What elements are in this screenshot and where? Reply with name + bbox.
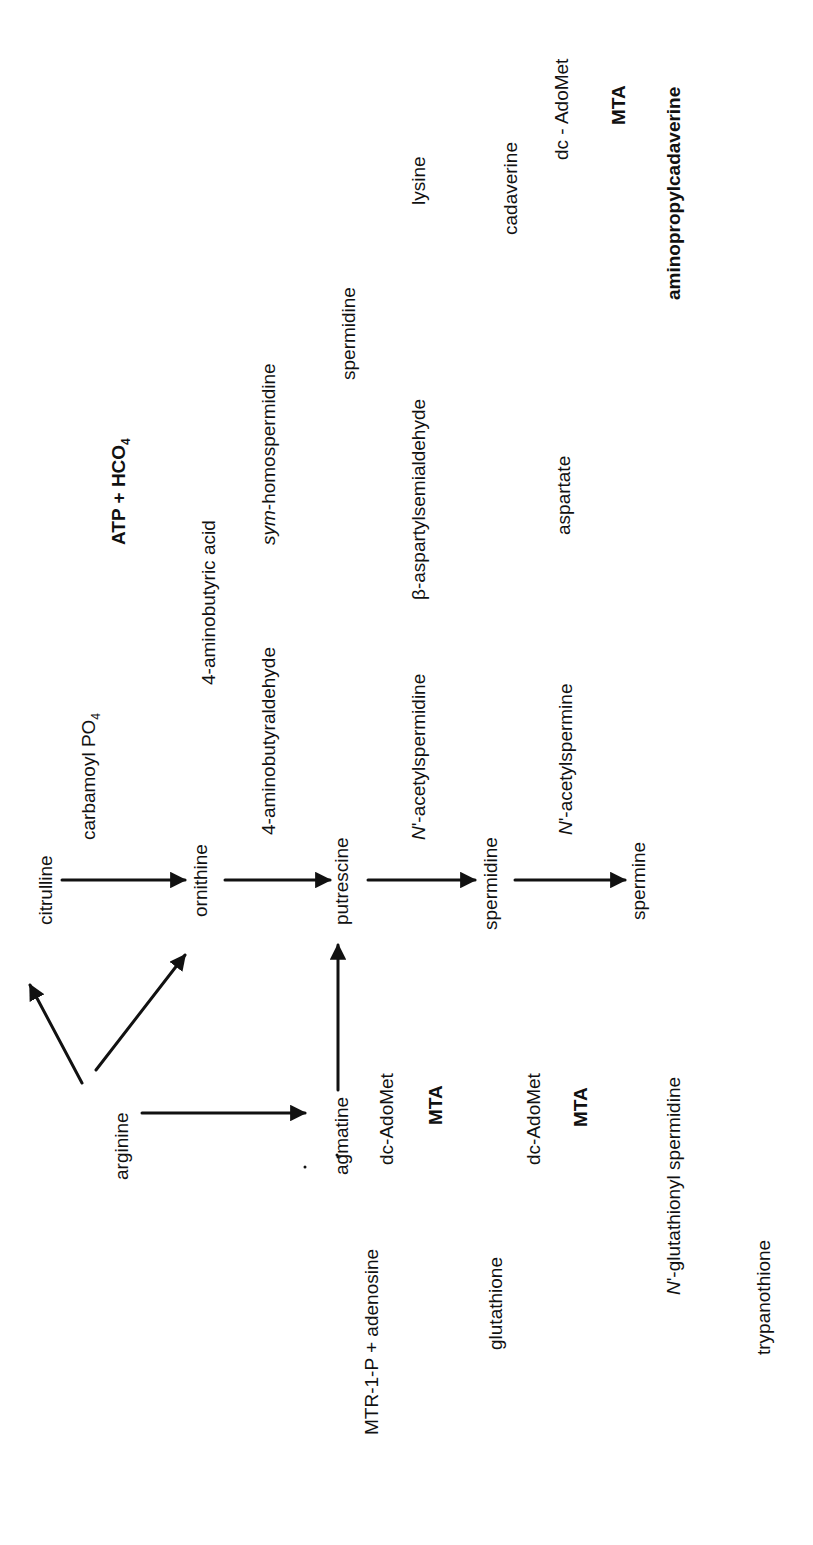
- compound-aminopropylcadaverine: aminopropylcadaverine: [663, 87, 684, 300]
- compound-glutathione: glutathione: [485, 1257, 506, 1350]
- compound-4-aminobutyric-acid: 4-aminobutyric acid: [198, 520, 219, 685]
- pathway-diagram: arginine citrulline ornithine agmatine p…: [0, 0, 813, 1545]
- compound-n-acetylspermidine: N'-acetylspermidine: [408, 674, 429, 840]
- compound-dc-adomet-3: dc - AdoMet: [551, 58, 572, 160]
- compound-citrulline: citrulline: [35, 855, 56, 925]
- compound-ornithine: ornithine: [190, 844, 211, 917]
- compound-glutathionyl-spermidine: N'-glutathionyl spermidine: [663, 1077, 684, 1295]
- compound-aspartate: aspartate: [553, 456, 574, 535]
- compound-arginine: arginine: [111, 1112, 132, 1180]
- compound-lysine: lysine: [408, 156, 429, 205]
- compound-mtr-adenosine: MTR-1-P + adenosine: [361, 1249, 382, 1435]
- compound-agmatine: agmatine: [331, 1097, 352, 1175]
- compound-putrescine: putrescine: [331, 837, 352, 925]
- compound-carbamoyl-phosphate: carbamoyl PO4: [78, 713, 103, 840]
- compound-sym-homospermidine: sym-homospermidine: [258, 363, 279, 545]
- compound-cadaverine: cadaverine: [500, 142, 521, 235]
- compound-spermine: spermine: [628, 842, 649, 920]
- arrow-reaction-3: [96, 955, 185, 1070]
- compound-spermidine: spermidine: [480, 837, 501, 930]
- compound-atp-hco3: ATP + HCO4: [108, 438, 133, 545]
- compound-n-acetylspermine: N'-acetylspermine: [555, 684, 576, 835]
- compound-mta-3: MTA: [608, 85, 629, 125]
- compound-dc-adomet-2: dc-AdoMet: [523, 1072, 544, 1165]
- compound-4-aminobutyraldehyde: 4-aminobutyraldehyde: [258, 647, 279, 835]
- compound-aspartylsemialdehyde: β-aspartylsemialdehyde: [408, 399, 429, 600]
- compound-dc-adomet-1: dc-AdoMet: [376, 1072, 397, 1165]
- compound-mta-1: MTA: [425, 1085, 446, 1125]
- arrow-reaction-4: [30, 985, 82, 1083]
- compound-mta-2: MTA: [570, 1087, 591, 1127]
- compound-trypanothione: trypanothione: [753, 1240, 774, 1355]
- compound-spermidine-alt: spermidine: [338, 287, 359, 380]
